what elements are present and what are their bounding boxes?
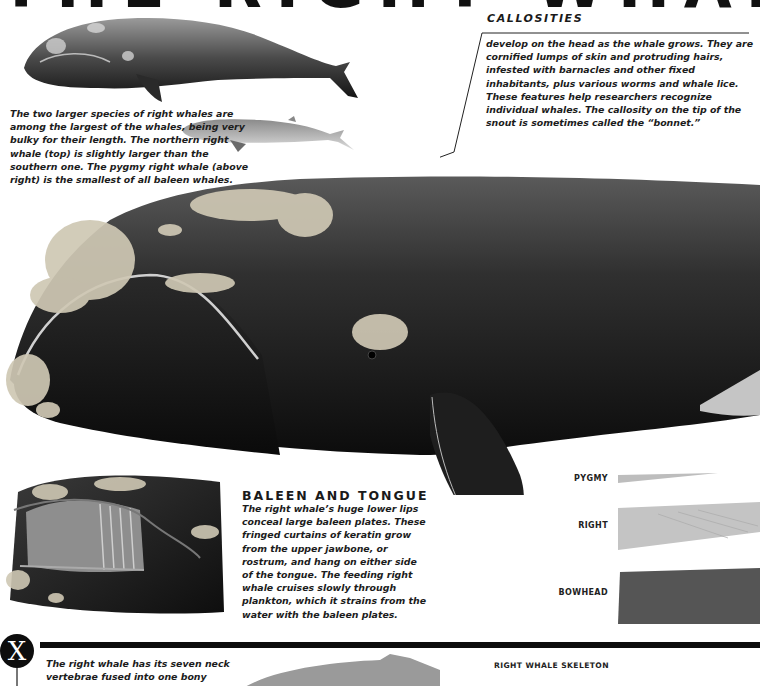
plate-label-right: RIGHT: [538, 521, 608, 530]
fact-badge-x: X: [0, 634, 34, 668]
callosities-heading: CALLOSITIES: [487, 12, 583, 25]
pygmy-plate-image: [618, 473, 718, 485]
baleen-heading: BALEEN AND TONGUE: [242, 488, 428, 503]
fact-badge-stem: [16, 668, 18, 686]
skull-illustration-partial: [240, 650, 440, 686]
bowhead-plate-image: [618, 568, 760, 624]
baleen-text: The right whale’s huge lower lips concea…: [242, 502, 430, 621]
section-divider: [40, 642, 760, 648]
skeleton-heading: RIGHT WHALE SKELETON: [494, 661, 609, 670]
northern-right-whale-illustration: [18, 6, 358, 104]
callosities-text: develop on the head as the whale grows. …: [486, 37, 756, 129]
plate-label-bowhead: BOWHEAD: [538, 588, 608, 597]
right-plate-image: [618, 502, 760, 550]
neck-vertebrae-fact: The right whale has its seven neck verte…: [46, 657, 246, 683]
right-whale-head-closeup: [0, 175, 760, 495]
baleen-mouth-cutaway: [0, 462, 236, 618]
plate-label-pygmy: PYGMY: [538, 474, 608, 483]
